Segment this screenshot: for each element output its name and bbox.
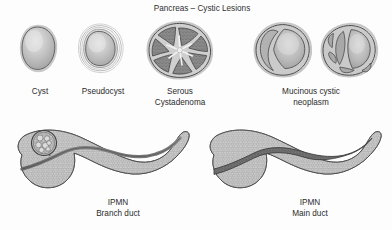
figure-title: Pancreas – Cystic Lesions xyxy=(154,4,250,13)
label-pseudocyst: Pseudocyst xyxy=(82,87,125,96)
mucinous-cystic-neoplasm-right-illustration xyxy=(322,24,377,77)
label-mucinous-cystic-neoplasm-line1: Mucinous cystic xyxy=(282,87,340,96)
serous-scar-center xyxy=(177,48,182,53)
cyst-highlight xyxy=(25,30,43,52)
label-ipmn-branch-duct-line2: Branch duct xyxy=(96,209,140,218)
serous-cystadenoma-illustration xyxy=(147,22,212,79)
label-ipmn-branch-duct-line1: IPMN xyxy=(108,198,129,207)
label-ipmn-main-duct-line2: Main duct xyxy=(292,209,328,218)
pancreas-cystic-lesions-figure: Pancreas – Cystic Lesions xyxy=(0,0,392,230)
cyst-illustration xyxy=(21,26,56,71)
label-serous-cystadenoma-line2: Cystadenoma xyxy=(155,98,206,107)
label-serous-cystadenoma-line1: Serous xyxy=(167,87,193,96)
pseudocyst-highlight xyxy=(88,34,106,53)
illustration-canvas: Pancreas – Cystic Lesions xyxy=(0,0,392,230)
label-ipmn-main-duct-line1: IPMN xyxy=(300,198,321,207)
label-mucinous-cystic-neoplasm-line2: neoplasm xyxy=(293,98,329,107)
mcn-right-highlight xyxy=(349,34,365,54)
label-cyst: Cyst xyxy=(32,87,49,96)
mucinous-cystic-neoplasm-left-illustration xyxy=(255,23,311,77)
mcn-left-highlight xyxy=(277,33,299,55)
